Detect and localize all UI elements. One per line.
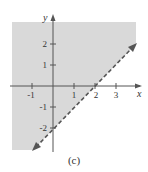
x-tick-label: 2 bbox=[94, 90, 99, 100]
x-tick-label: 1 bbox=[72, 90, 77, 100]
y-tick-label: -1 bbox=[40, 102, 48, 112]
graph: -1 1 2 3 2 1 -1 -2 x y bbox=[0, 0, 148, 172]
y-tick-label: -2 bbox=[40, 123, 48, 133]
y-tick-label: 1 bbox=[43, 60, 48, 70]
x-tick-label: 3 bbox=[114, 90, 119, 100]
y-axis-label: y bbox=[42, 12, 48, 23]
y-tick-label: 2 bbox=[43, 39, 48, 49]
figure-caption: (c) bbox=[0, 154, 148, 166]
x-axis-label: x bbox=[136, 88, 142, 99]
y-axis-arrow-icon bbox=[51, 14, 56, 21]
x-tick-label: -1 bbox=[27, 90, 35, 100]
